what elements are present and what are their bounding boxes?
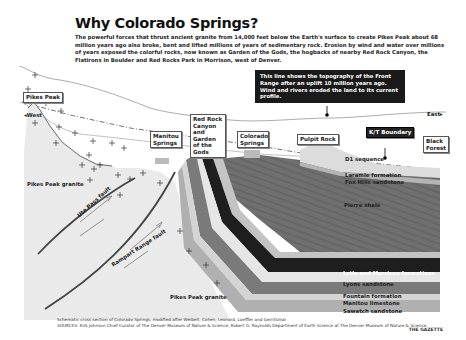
layer-label-lyons: Lyons sandstone xyxy=(343,281,394,287)
label-manitou-springs: Manitou Springs xyxy=(150,131,182,148)
label-black-forest: Black Forest xyxy=(423,136,449,153)
label-pulpit-rock: Pulpit Rock xyxy=(297,134,339,145)
sources-note: SOURCES: Kirk Johnson Chief Curator of T… xyxy=(57,323,428,328)
direction-west: ◂West xyxy=(24,112,42,118)
layer-label-fox-hills: Fox Hills sandstone xyxy=(345,179,404,185)
layer-label-manitou: Manitou limestone xyxy=(343,300,400,306)
label-red-rock-canyon: Red Rock Canyon and Garden of the Gods xyxy=(190,114,226,158)
arrow-right-icon: ▸ xyxy=(440,111,443,117)
credit-gazette: THE GAZETTE xyxy=(409,327,443,332)
schematic-note: Schematic cross section of Colorado Spri… xyxy=(57,317,286,322)
label-pikes-peak: Pikes Peak xyxy=(23,92,63,103)
layer-label-dakota: Dakota sandstone xyxy=(343,260,398,266)
label-granite-upper: Pikes Peak granite xyxy=(27,181,84,187)
label-granite-lower: Pikes Peak granite xyxy=(170,294,227,300)
topography-callout: This line shows the topography of the Fr… xyxy=(255,70,405,103)
layer-label-laramie: Laramie formation xyxy=(345,172,401,178)
direction-east: East▸ xyxy=(427,111,443,117)
layer-label-d1: D1 sequence xyxy=(345,156,384,162)
label-colorado-springs: Colorado Springs xyxy=(237,131,269,148)
layer-label-lytle-morrison: Lytle and Morrison formations xyxy=(343,270,435,276)
layer-label-fountain: Fountain formation xyxy=(343,293,402,299)
layer-label-pierre: Pierre shale xyxy=(344,202,381,208)
layer-label-sawatch: Sawatch sandstone xyxy=(343,308,402,314)
cross-section-diagram xyxy=(0,0,466,340)
label-kt-boundary: K/T Boundary xyxy=(366,127,414,138)
